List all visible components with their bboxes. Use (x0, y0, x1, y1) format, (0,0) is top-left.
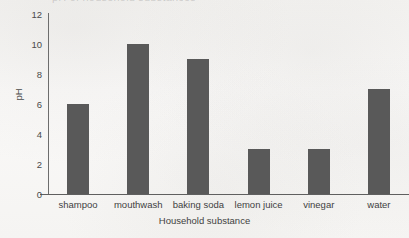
bar (248, 149, 270, 194)
x-tick-label: water (367, 199, 390, 210)
chart-title-clipped: pH of household substances (52, 0, 196, 3)
y-axis-title: pH (13, 88, 24, 100)
bar (187, 59, 209, 194)
bar (67, 104, 89, 194)
bar (127, 44, 149, 194)
y-tick-label: 12 (31, 9, 48, 20)
y-tick-label: 6 (37, 99, 48, 110)
x-tick-label: mouthwash (114, 199, 163, 210)
x-axis-line (40, 194, 409, 195)
bar (308, 149, 330, 194)
y-tick-label: 4 (37, 129, 48, 140)
x-tick-label: lemon juice (235, 199, 283, 210)
x-tick-label: vinegar (303, 199, 334, 210)
chart-page: pH of household substances pH 024681012 … (0, 0, 409, 238)
x-tick-label: baking soda (173, 199, 224, 210)
y-tick-label: 10 (31, 39, 48, 50)
bar (368, 89, 390, 194)
y-tick-label: 0 (37, 189, 48, 200)
y-tick-label: 8 (37, 69, 48, 80)
x-axis-title: Household substance (0, 215, 409, 226)
x-tick-label: shampoo (59, 199, 98, 210)
y-tick-label: 2 (37, 159, 48, 170)
plot-area: 024681012 (48, 14, 409, 194)
